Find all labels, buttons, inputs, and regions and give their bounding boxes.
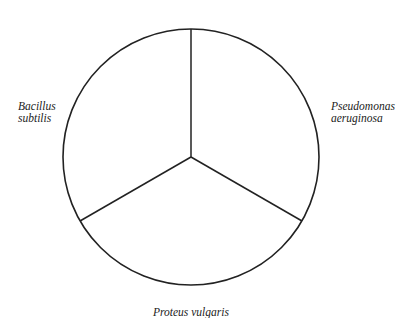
label-line: subtilis (18, 112, 56, 124)
divider-left (80, 157, 191, 221)
label-pseudomonas-aeruginosa: Pseudomonas aeruginosa (331, 100, 395, 124)
label-line: Pseudomonas (331, 100, 395, 112)
label-bacillus-subtilis: Bacillus subtilis (18, 100, 56, 124)
label-line: aeruginosa (331, 112, 395, 124)
label-line: Proteus vulgaris (153, 306, 229, 318)
label-proteus-vulgaris: Proteus vulgaris (153, 306, 229, 318)
divider-right (191, 157, 302, 221)
label-line: Bacillus (18, 100, 56, 112)
divided-circle-diagram (0, 0, 412, 318)
